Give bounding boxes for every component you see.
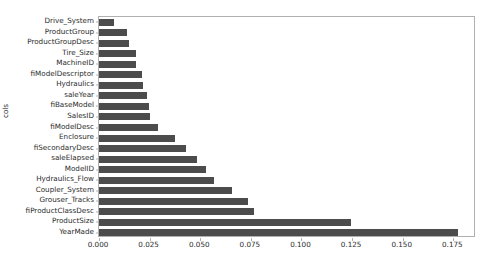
y-tick-label: ModelID <box>65 165 94 172</box>
y-tick-label: ProductGroupDesc <box>27 39 94 46</box>
y-tick-label: Tire_Size <box>62 49 94 56</box>
y-tick-label: SalesID <box>67 112 94 119</box>
y-tick-label: Enclosure <box>59 133 94 140</box>
x-tick-label: 0.000 <box>88 241 109 248</box>
bar <box>99 156 197 163</box>
y-tick-label: fiProductClassDesc <box>26 207 94 214</box>
x-tick-label: 0.050 <box>189 241 210 248</box>
y-tick-label: ProductGroup <box>45 28 94 35</box>
bar <box>99 40 129 47</box>
bar <box>99 135 175 142</box>
y-tick-mark <box>96 148 99 149</box>
bar <box>99 198 248 205</box>
y-tick-label: Grouser_Tracks <box>39 197 94 204</box>
x-tick-label: 0.075 <box>240 241 261 248</box>
bar <box>99 166 206 173</box>
y-tick-label: fiSecondaryDesc <box>34 144 94 151</box>
bar <box>99 61 136 68</box>
bar <box>99 92 147 99</box>
y-tick-label: Coupler_System <box>36 186 94 193</box>
y-tick-label: saleYear <box>64 91 94 98</box>
bar <box>99 229 458 236</box>
y-tick-label: fiModelDesc <box>50 123 94 130</box>
y-tick-label: MachineID <box>56 60 94 67</box>
bar <box>99 187 232 194</box>
y-tick-label: fiBaseModel <box>50 102 94 109</box>
feature-importance-bar-chart: cols Drive_SystemProductGroupProductGrou… <box>0 0 495 265</box>
y-tick-label: Hydraulics <box>56 81 94 88</box>
y-tick-label: fiModelDescriptor <box>31 70 94 77</box>
y-tick-mark <box>96 201 99 202</box>
x-tick-label: 0.150 <box>391 241 412 248</box>
y-tick-mark <box>96 85 99 86</box>
bar <box>99 113 150 120</box>
x-tick-label: 0.100 <box>290 241 311 248</box>
y-tick-mark <box>96 43 99 44</box>
y-axis-tick-labels: Drive_SystemProductGroupProductGroupDesc… <box>0 0 94 265</box>
y-tick-label: YearMade <box>59 228 94 235</box>
bar <box>99 50 136 57</box>
bar <box>99 177 214 184</box>
y-tick-mark <box>96 64 99 65</box>
bar <box>99 82 143 89</box>
y-tick-mark <box>96 232 99 233</box>
y-tick-mark <box>96 127 99 128</box>
y-tick-mark <box>96 211 99 212</box>
y-tick-mark <box>96 190 99 191</box>
x-tick-label: 0.125 <box>341 241 362 248</box>
y-tick-mark <box>96 95 99 96</box>
bar <box>99 19 114 26</box>
y-tick-mark <box>96 22 99 23</box>
plot-area <box>98 16 475 237</box>
y-tick-mark <box>96 53 99 54</box>
x-tick-label: 0.025 <box>138 241 159 248</box>
y-tick-label: ProductSize <box>52 218 94 225</box>
bar <box>99 145 186 152</box>
y-tick-mark <box>96 74 99 75</box>
y-tick-mark <box>96 32 99 33</box>
bar <box>99 29 127 36</box>
y-tick-mark <box>96 222 99 223</box>
bar <box>99 208 254 215</box>
bar <box>99 71 142 78</box>
bar <box>99 124 158 131</box>
y-tick-label: Drive_System <box>44 18 94 25</box>
y-tick-mark <box>96 106 99 107</box>
y-tick-label: saleElapsed <box>51 154 94 161</box>
y-tick-mark <box>96 159 99 160</box>
bar <box>99 219 351 226</box>
y-tick-mark <box>96 116 99 117</box>
y-tick-mark <box>96 180 99 181</box>
y-tick-mark <box>96 169 99 170</box>
y-tick-mark <box>96 138 99 139</box>
y-tick-label: Hydraulics_Flow <box>36 176 94 183</box>
x-tick-label: 0.175 <box>442 241 463 248</box>
bar <box>99 103 149 110</box>
